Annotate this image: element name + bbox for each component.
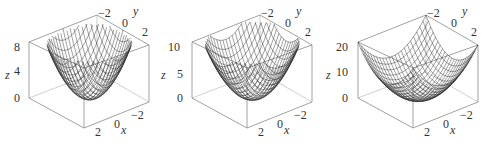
plot-canvas-3: 20 10 0 z 2 0 −2 x −2 0 2 y	[323, 0, 488, 148]
surface-plot-1: 8 4 0 z 2 0 −2 x −2 0 2 y	[0, 0, 165, 148]
x-tick: −2	[131, 108, 144, 122]
plot-canvas-2: 10 5 0 z 2 0 −2 x −2 0 2 y	[163, 0, 328, 148]
x-tick: 2	[258, 125, 264, 139]
z-tick: 0	[14, 91, 20, 105]
x-axis-label: x	[283, 123, 290, 137]
x-tick: 0	[114, 117, 120, 131]
y-tick: 2	[142, 25, 148, 39]
x-tick: −2	[460, 108, 473, 122]
z-axis-label: z	[4, 68, 10, 82]
surface-plot-3: 20 10 0 z 2 0 −2 x −2 0 2 y	[323, 0, 488, 148]
x-tick: −2	[294, 108, 307, 122]
y-tick: 2	[471, 25, 477, 39]
z-tick: 10	[168, 40, 180, 54]
x-tick: 0	[443, 117, 449, 131]
z-tick: 8	[14, 40, 20, 54]
z-tick: 5	[177, 67, 183, 81]
x-tick: 2	[424, 125, 430, 139]
x-tick: 2	[95, 125, 101, 139]
surface-plot-2: 10 5 0 z 2 0 −2 x −2 0 2 y z	[163, 0, 328, 148]
z-tick: 0	[342, 91, 348, 105]
y-tick: 2	[305, 25, 311, 39]
y-tick: 0	[122, 16, 128, 30]
y-tick: −2	[261, 6, 274, 20]
z-tick: 10	[336, 65, 348, 79]
z-tick: 0	[177, 91, 183, 105]
surface-mesh-2	[205, 22, 299, 101]
z-axis-label: z	[325, 68, 331, 82]
y-axis-label: y	[295, 4, 302, 18]
z-tick: 4	[14, 64, 20, 78]
y-axis-label: y	[461, 4, 468, 18]
surface-mesh-3	[358, 15, 478, 102]
surface-mesh-1	[47, 24, 132, 100]
y-tick: 0	[451, 16, 457, 30]
y-tick: 0	[285, 16, 291, 30]
plot-canvas-1: 8 4 0 z 2 0 −2 x −2 0 2 y	[0, 0, 165, 148]
x-axis-label: x	[449, 123, 456, 137]
y-tick: −2	[98, 6, 111, 20]
z-tick: 20	[336, 40, 348, 54]
y-axis-label: y	[132, 4, 139, 18]
x-axis-label: x	[120, 123, 127, 137]
x-tick: 0	[277, 117, 283, 131]
z-axis-label-2: z	[161, 68, 166, 83]
y-tick: −2	[427, 6, 440, 20]
